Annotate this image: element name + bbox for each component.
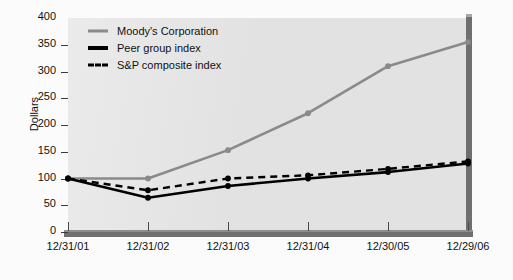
data-point-marker — [145, 187, 151, 193]
series-line — [68, 161, 468, 190]
legend-item-sp-composite: S&P composite index — [88, 56, 221, 73]
data-point-marker — [385, 63, 391, 69]
data-point-marker — [385, 166, 391, 172]
legend-label-sp-composite: S&P composite index — [117, 59, 221, 71]
data-point-marker — [305, 172, 311, 178]
data-point-marker — [225, 176, 231, 182]
legend-label-peer-group: Peer group index — [117, 42, 201, 54]
data-point-marker — [305, 110, 311, 116]
data-point-marker — [145, 195, 151, 201]
legend-swatch-peer-group-icon — [88, 42, 108, 54]
legend: Moody's Corporation Peer group index S&P… — [88, 22, 221, 73]
series-line — [68, 164, 468, 198]
legend-item-moodys: Moody's Corporation — [88, 22, 221, 39]
data-point-marker — [145, 176, 151, 182]
data-point-marker — [225, 147, 231, 153]
legend-label-moodys: Moody's Corporation — [117, 25, 218, 37]
series-layer — [0, 0, 513, 280]
data-point-marker — [65, 176, 71, 182]
data-point-marker — [225, 183, 231, 189]
legend-swatch-sp-composite-icon — [88, 59, 108, 71]
performance-graph: Dollars 050100150200250300350400 12/31/0… — [0, 0, 513, 280]
data-point-marker — [465, 158, 471, 164]
data-point-marker — [465, 39, 471, 45]
legend-swatch-moodys-icon — [88, 25, 108, 37]
legend-item-peer-group: Peer group index — [88, 39, 221, 56]
